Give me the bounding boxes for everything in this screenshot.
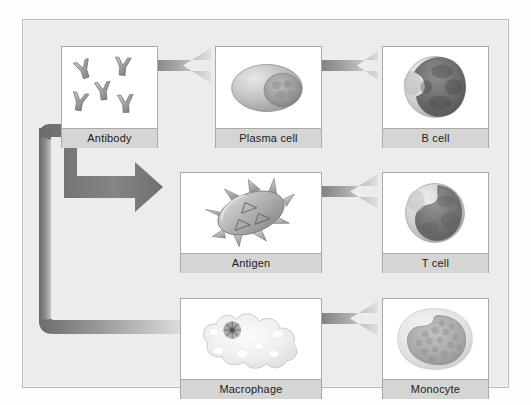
panel-label-t-cell: T cell [383,253,488,273]
panel-label-b-cell: B cell [383,128,488,148]
panel-monocyte[interactable]: Monocyte [382,298,489,399]
panel-plasma-cell[interactable]: Plasma cell [215,46,322,148]
panel-b-cell[interactable]: B cell [382,46,489,148]
diagram-canvas: Antibody [0,0,531,405]
antigen-icon [181,173,321,253]
b-cell-icon [383,47,488,128]
arrow-antibody-branch [39,116,193,334]
panel-t-cell[interactable]: T cell [382,172,489,273]
panel-antigen[interactable]: Antigen [180,172,322,273]
panel-label-macrophage: Macrophage [181,379,321,399]
panel-label-plasma-cell: Plasma cell [216,128,321,148]
diagram-frame: Antibody [22,19,509,388]
t-cell-icon [383,173,488,253]
panel-label-monocyte: Monocyte [383,379,488,399]
antibody-cluster-icon [62,47,157,128]
macrophage-icon [181,299,321,379]
panel-macrophage[interactable]: Macrophage [180,298,322,399]
monocyte-icon [383,299,488,379]
panel-label-antibody: Antibody [62,128,157,148]
panel-label-antigen: Antigen [181,253,321,273]
panel-antibody[interactable]: Antibody [61,46,158,148]
plasma-cell-icon [216,47,321,128]
